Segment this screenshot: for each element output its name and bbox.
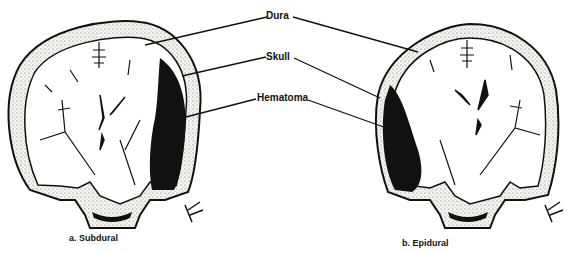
caption-subdural: a. Subdural — [69, 233, 118, 243]
epidural-skull-diagram — [376, 24, 563, 228]
label-skull: Skull — [266, 51, 290, 62]
label-dura: Dura — [266, 10, 289, 21]
subdural-skull-diagram — [9, 21, 203, 228]
label-hematoma: Hematoma — [257, 92, 308, 103]
caption-epidural: b. Epidural — [402, 238, 449, 248]
diagram-canvas — [0, 0, 576, 253]
